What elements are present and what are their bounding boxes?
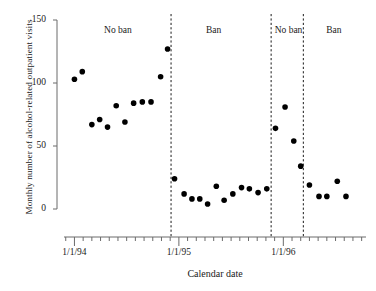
data-point-0-10 — [158, 74, 164, 80]
data-point-0-2 — [89, 122, 95, 128]
data-point-0-26 — [291, 138, 297, 144]
data-point-0-27 — [298, 163, 304, 169]
data-point-0-7 — [131, 100, 137, 106]
data-point-0-5 — [113, 103, 119, 109]
data-point-0-24 — [273, 126, 279, 132]
data-point-0-20 — [239, 185, 245, 191]
data-points — [72, 46, 349, 207]
data-point-0-1 — [79, 69, 85, 75]
data-point-0-11 — [165, 46, 171, 52]
data-point-0-14 — [189, 196, 195, 202]
data-point-0-9 — [148, 99, 154, 105]
data-point-0-17 — [214, 184, 220, 190]
data-point-0-8 — [140, 99, 146, 105]
scatter-plot-canvas — [0, 0, 376, 291]
data-point-0-13 — [181, 191, 187, 197]
data-point-0-16 — [205, 201, 211, 207]
data-point-0-30 — [324, 194, 330, 200]
data-point-0-28 — [307, 182, 313, 188]
data-point-0-19 — [230, 191, 236, 197]
data-point-0-22 — [255, 190, 261, 196]
chart-figure: Monthly number of alcohol-related outpat… — [0, 0, 376, 291]
data-point-0-31 — [334, 178, 340, 184]
data-point-0-12 — [172, 176, 178, 182]
axes — [53, 20, 366, 246]
data-point-0-6 — [122, 119, 128, 125]
data-point-0-0 — [72, 76, 78, 82]
data-point-0-4 — [105, 124, 111, 130]
data-point-0-15 — [197, 196, 203, 202]
data-point-0-23 — [264, 186, 270, 192]
data-point-0-29 — [316, 194, 322, 200]
data-point-0-3 — [97, 117, 103, 123]
data-point-0-18 — [221, 197, 227, 203]
data-point-0-25 — [282, 104, 288, 110]
data-point-0-21 — [247, 186, 253, 192]
data-point-0-32 — [343, 194, 349, 200]
period-divider-lines — [171, 14, 303, 237]
